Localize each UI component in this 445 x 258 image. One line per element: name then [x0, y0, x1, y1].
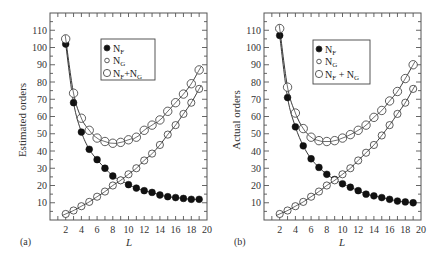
panel-a-y-tick-label: 110 [32, 25, 47, 36]
panel-b-n-f-point [371, 192, 378, 199]
panel-b-x-tick-label: 14 [369, 224, 379, 235]
panel-a-y-tick-label: 50 [37, 128, 47, 139]
panel-b-y-tick-label: 50 [251, 128, 261, 139]
panel-b-x-tick-label: 8 [324, 224, 329, 235]
panel-a: (a) Estimated orders L 24681012141618201… [16, 13, 212, 248]
panel-b-n-f-point [394, 198, 401, 205]
panel-b-x-tick-label: 12 [353, 224, 363, 235]
panel-a-y-tick-label: 100 [32, 42, 47, 53]
panel-b-legend-marker-1 [317, 59, 322, 64]
chart-figure: (a) Estimated orders L 24681012141618201… [0, 0, 445, 258]
panel-b-y-tick-label: 90 [251, 59, 261, 70]
panel-b-x-axis-label: L [338, 236, 345, 248]
panel-b-n-f-point [355, 187, 362, 194]
panel-a-n-f-point [86, 146, 93, 153]
panel-a-x-tick-label: 4 [79, 224, 84, 235]
panel-b-n-f-point [300, 142, 307, 149]
panel-a-y-tick-label: 30 [37, 163, 47, 174]
panel-b-y-axis-label: Actual orders [230, 90, 242, 150]
panel-a-x-tick-label: 8 [110, 224, 115, 235]
panel-a-x-tick-label: 2 [63, 224, 68, 235]
panel-a-n-g-line [66, 89, 199, 214]
panel-b: (b) Actual orders L 24681012141618201020… [230, 13, 426, 248]
panel-a-n-f-point [133, 185, 140, 192]
panel-b-y-tick-label: 60 [251, 111, 261, 122]
panel-a-x-tick-label: 18 [186, 224, 196, 235]
panel-b-n-f-point [339, 180, 346, 187]
panel-a-n-f-point [172, 194, 179, 201]
panel-b-legend: NFNGNF + NG [313, 40, 370, 84]
panel-a-n-f-point [94, 156, 101, 163]
panel-a-legend-marker-2 [103, 69, 110, 76]
panel-b-x-tick-label: 10 [338, 224, 348, 235]
panel-a-y-tick-label: 10 [37, 197, 47, 208]
panel-b-x-tick-label: 6 [309, 224, 314, 235]
panel-a-n-f-point [149, 189, 156, 196]
panel-b-y-tick-label: 70 [251, 94, 261, 105]
panel-b-legend-marker-0 [316, 46, 322, 52]
panel-b-y-tick-label: 80 [251, 77, 261, 88]
panel-a-y-tick-label: 20 [37, 180, 47, 191]
panel-b-y-tick-label: 100 [246, 42, 261, 53]
panel-b-series-n-g [276, 85, 417, 217]
panel-a-n-f-point [157, 192, 164, 199]
panel-b-x-tick-label: 4 [293, 224, 298, 235]
panel-a-y-axis-label: Estimated orders [16, 83, 28, 157]
panel-b-n-f-point [386, 196, 393, 203]
panel-a-x-tick-label: 16 [171, 224, 181, 235]
panel-b-n-f-point [378, 194, 385, 201]
panel-a-x-tick-label: 14 [155, 224, 165, 235]
panel-a-x-tick-label: 12 [139, 224, 149, 235]
panel-b-n-f-point [363, 191, 370, 198]
panel-b-n-f-point [402, 198, 409, 205]
panel-a-legend: NFNGNF+NG [101, 39, 155, 81]
panel-b-x-tick-label: 2 [277, 224, 282, 235]
panel-a-label: (a) [20, 236, 31, 248]
panel-a-x-tick-label: 20 [202, 224, 212, 235]
panel-a-y-tick-label: 60 [37, 111, 47, 122]
panel-b-n-f-point [323, 171, 330, 178]
panel-a-n-f-point [125, 181, 132, 188]
panel-b-n-f-point [308, 155, 315, 162]
panel-b-y-tick-label: 10 [251, 197, 261, 208]
panel-b-x-tick-label: 18 [400, 224, 410, 235]
panel-b-y-tick-label: 30 [251, 163, 261, 174]
panel-a-n-f-point [78, 129, 85, 136]
panel-a-n-f-point [164, 193, 171, 200]
panel-a-legend-marker-0 [104, 45, 110, 51]
panel-a-y-tick-label: 70 [37, 94, 47, 105]
panel-a-n-f-point [102, 165, 109, 172]
panel-b-n-f-point [292, 123, 299, 130]
panel-b-n-f-point [347, 184, 354, 191]
panel-a-n-f-point [180, 195, 187, 202]
panel-a-y-tick-label: 40 [37, 146, 47, 157]
panel-b-x-tick-label: 16 [385, 224, 395, 235]
panel-a-n-f-point [188, 196, 195, 203]
panel-b-n-f-point [410, 199, 417, 206]
panel-b-x-tick-label: 20 [416, 224, 426, 235]
panel-a-n-f-point [109, 173, 116, 180]
panel-b-n-g-line [280, 89, 413, 214]
panel-a-x-axis-label: L [125, 236, 132, 248]
panel-a-x-tick-label: 6 [95, 224, 100, 235]
panel-b-legend-marker-2 [315, 70, 322, 77]
panel-a-y-tick-label: 80 [37, 77, 47, 88]
panel-b-y-tick-label: 40 [251, 146, 261, 157]
panel-a-n-f-point [196, 196, 203, 203]
panel-b-label: (b) [234, 236, 246, 248]
panel-a-x-tick-label: 10 [124, 224, 134, 235]
panel-b-y-tick-label: 20 [251, 180, 261, 191]
panel-a-n-f-point [141, 187, 148, 194]
panel-a-y-tick-label: 90 [37, 59, 47, 70]
panel-a-legend-marker-1 [105, 58, 110, 63]
panel-b-n-f-point [316, 164, 323, 171]
panel-b-y-tick-label: 110 [246, 25, 261, 36]
